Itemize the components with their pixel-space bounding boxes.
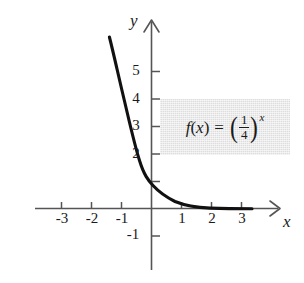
- fraction-denominator: 4: [239, 127, 250, 142]
- function-equation: f(x) = ( 1 4 )x: [186, 113, 265, 141]
- function-argument: x: [196, 119, 204, 136]
- x-tick-label-neg2: -2: [78, 210, 106, 227]
- y-tick-label-3: 3: [128, 117, 144, 134]
- x-tick-label-2: 2: [202, 210, 222, 227]
- x-tick-label-neg3: -3: [48, 210, 76, 227]
- x-tick-label-neg1: -1: [108, 210, 136, 227]
- equals-sign: =: [214, 119, 224, 136]
- exponent: x: [259, 112, 264, 123]
- y-axis-label: y: [130, 11, 138, 31]
- y-tick-label-5: 5: [128, 62, 144, 79]
- x-tick-label-1: 1: [172, 210, 192, 227]
- base-fraction: 1 4: [239, 113, 250, 141]
- function-close-paren: ): [204, 119, 210, 136]
- base-open-paren: (: [230, 115, 238, 140]
- x-tick-label-3: 3: [232, 210, 252, 227]
- x-axis-label: x: [283, 212, 291, 232]
- y-tick-label-2: 2: [128, 145, 144, 162]
- fraction-numerator: 1: [239, 113, 250, 127]
- y-tick-label-4: 4: [128, 90, 144, 107]
- y-axis-ticks: [151, 72, 160, 237]
- y-tick-label-neg1: -1: [120, 226, 146, 243]
- formula-callout-box: f(x) = ( 1 4 )x: [160, 99, 290, 155]
- base-close-paren: ): [251, 115, 259, 140]
- exponential-function-figure: y x -3 -2 -1 1 2 3 5 4 3 2 -1 f(x) = ( 1…: [0, 0, 304, 283]
